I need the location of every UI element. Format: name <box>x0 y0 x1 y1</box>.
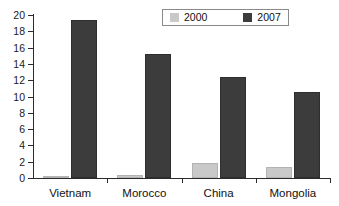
x-tick-3 <box>330 178 331 183</box>
y-tick-label-2: 2 <box>0 157 25 167</box>
y-tick-0 <box>28 178 33 179</box>
y-tick-label-14: 14 <box>0 59 25 69</box>
bar-vietnam-2007 <box>71 20 97 178</box>
bar-mongolia-2007 <box>294 92 320 178</box>
category-label-vietnam: Vietnam <box>33 186 107 200</box>
bar-china-2007 <box>220 77 246 178</box>
y-tick-label-16: 16 <box>0 43 25 53</box>
bar-morocco-2000 <box>117 175 143 178</box>
bar-china-2000 <box>192 163 218 178</box>
y-tick-label-10: 10 <box>0 92 25 102</box>
bar-morocco-2007 <box>145 54 171 178</box>
category-label-morocco: Morocco <box>107 186 181 200</box>
plot-area <box>33 15 330 178</box>
x-tick-1 <box>182 178 183 183</box>
category-label-china: China <box>182 186 256 200</box>
bar-chart: 2000 2007 02468101214161820 VietnamMoroc… <box>0 0 339 206</box>
category-label-mongolia: Mongolia <box>256 186 330 200</box>
y-tick-label-18: 18 <box>0 26 25 36</box>
bar-vietnam-2000 <box>43 176 69 178</box>
y-tick-label-8: 8 <box>0 108 25 118</box>
y-tick-label-6: 6 <box>0 124 25 134</box>
y-tick-label-4: 4 <box>0 140 25 150</box>
y-tick-label-20: 20 <box>0 10 25 20</box>
y-tick-label-0: 0 <box>0 173 25 183</box>
y-tick-label-12: 12 <box>0 75 25 85</box>
x-tick-0 <box>107 178 108 183</box>
bar-mongolia-2000 <box>266 167 292 178</box>
x-tick-2 <box>256 178 257 183</box>
